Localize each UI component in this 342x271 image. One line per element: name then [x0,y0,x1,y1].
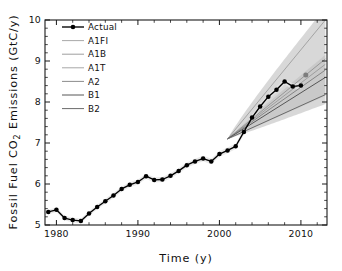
actual-data-point [266,94,271,99]
x-tick-label: 1990 [126,228,151,239]
actual-data-point [291,84,296,89]
actual-data-point [119,187,124,192]
actual-data-point [233,144,238,149]
legend-label-actual: Actual [88,22,117,32]
legend-marker-actual [71,25,76,30]
y-axis-title-pre: Fossil Fuel CO [7,139,20,229]
y-tick-label: 8 [35,96,41,107]
actual-data-point [225,148,230,153]
y-tick-label: 5 [35,219,41,230]
legend-label-a2: A2 [88,77,100,87]
x-axis-title: Time (y) [158,252,213,265]
y-axis-title-post: Emissions (GtC/y) [7,15,20,134]
actual-data-point [193,159,198,164]
actual-data-point [299,83,304,88]
actual-data-point [201,156,206,161]
y-tick-label: 7 [35,137,41,148]
actual-data-point [282,79,287,84]
legend-label-a1fi: A1FI [88,36,108,46]
actual-data-point [87,211,92,216]
legend-label-a1b: A1B [88,49,106,59]
y-axis-title: Fossil Fuel CO2 Emissions (GtC/y) [7,15,22,230]
actual-data-point [103,199,108,204]
actual-data-point [168,174,173,179]
legend-label-b1: B1 [88,90,100,100]
x-tick-label: 2010 [289,228,314,239]
actual-data-point [136,180,141,185]
annotation-markers [303,72,308,77]
actual-data-point [209,159,214,164]
legend-label-b2: B2 [88,104,100,114]
isolated-gray-point [303,72,308,77]
actual-data-point [111,193,116,198]
actual-data-point [95,205,100,210]
actual-data-point [54,208,59,213]
actual-data-point [160,177,165,182]
actual-data-point [258,104,263,109]
y-tick-label: 9 [35,55,41,66]
actual-data-point [144,174,149,179]
actual-data-point [176,169,181,174]
actual-data-point [62,216,67,221]
actual-data-point [250,115,255,120]
actual-data-point [274,87,279,92]
actual-data-point [217,152,222,157]
legend-label-a1t: A1T [88,63,106,73]
chart-figure: 1980199020002010 5678910 Time (y) Fossil… [0,0,342,271]
actual-data-point [70,218,75,223]
y-tick-label: 6 [35,178,41,189]
actual-data-point [242,130,247,135]
fossil-fuel-co2-emissions-chart: 1980199020002010 5678910 Time (y) Fossil… [0,0,342,271]
svg-text:Fossil Fuel CO2 Emissions (GtC: Fossil Fuel CO2 Emissions (GtC/y) [7,15,22,230]
y-tick-label: 10 [29,14,41,25]
actual-data-point [46,210,51,215]
x-tick-label: 1980 [44,228,69,239]
actual-data-point [185,163,190,168]
actual-data-point [79,219,84,224]
x-tick-label: 2000 [207,228,232,239]
actual-data-point [152,178,157,183]
actual-data-point [128,183,133,188]
